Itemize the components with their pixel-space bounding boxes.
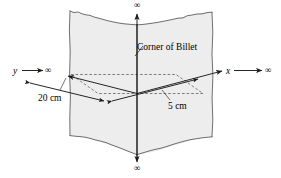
vertical-bottom-infinity-label: ∞	[134, 164, 140, 173]
x-axis-infinity-label: ∞	[265, 66, 271, 75]
billet-left-face	[70, 11, 137, 155]
dimension-20cm-leader	[60, 78, 66, 90]
dimension-20cm-label: 20 cm	[38, 94, 61, 104]
x-axis-label: x	[226, 67, 230, 77]
billet-right-outer-edge	[212, 12, 213, 137]
diagram-svg	[0, 0, 281, 178]
diagram-canvas: Corner of Billet 20 cm 5 cm x y ∞ ∞ ∞ ∞	[0, 0, 281, 178]
y-axis-label: y	[13, 67, 17, 77]
y-axis-infinity-label: ∞	[45, 66, 51, 75]
corner-of-billet-label: Corner of Billet	[137, 43, 197, 53]
billet-body	[69, 11, 213, 155]
dimension-5cm-label: 5 cm	[168, 102, 187, 112]
vertical-top-infinity-label: ∞	[134, 1, 140, 10]
